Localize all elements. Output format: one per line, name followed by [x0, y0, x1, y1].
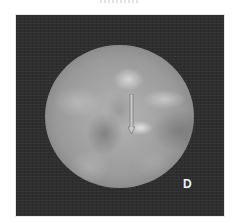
panel-label: D [183, 178, 192, 190]
arrow-down-icon [128, 94, 135, 134]
image-panel [16, 15, 224, 216]
endoscopic-view [45, 45, 194, 188]
clipped-caption [100, 0, 140, 3]
figure: D [0, 0, 240, 223]
